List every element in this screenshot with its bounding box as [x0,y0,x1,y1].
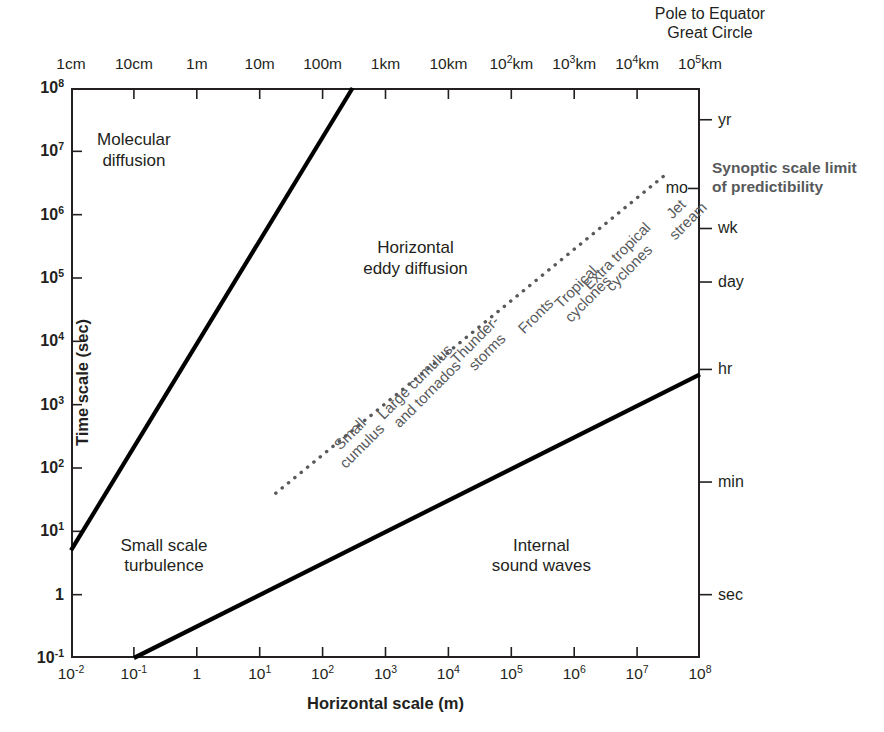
left-axis-label-1: 107 [16,143,64,159]
top-axis-label-1: 10cm [115,56,153,72]
right-axis-label-yr: yr [718,112,731,128]
top-axis-label-7: 102km [489,56,533,72]
top-axis-label-0: 1cm [56,56,85,72]
top-axis-label-6: 10km [429,56,467,72]
right-axis-label-min: min [718,474,744,490]
region-label-0-line-1: diffusion [97,151,171,172]
bottom-axis-label-1: 10-1 [121,666,148,682]
top-axis-label-3: 10m [245,56,275,72]
left-axis-label-2: 106 [16,207,64,223]
bottom-axis-label-3: 101 [248,666,271,682]
region-label-2-line-0: Small scale [120,536,207,557]
region-label-2: Small scaleturbulence [120,536,207,577]
left-axis-label-8: 1 [16,587,64,603]
top-axis-label-8: 103km [552,56,596,72]
left-axis-label-7: 101 [16,523,64,539]
internal-sound-waves-boundary-line [134,374,700,658]
top-axis-label-4: 100m [303,56,342,72]
region-label-3: Internalsound waves [492,536,591,577]
top-axis-label-10: 105km [678,56,722,72]
bottom-axis-label-5: 103 [374,666,397,682]
left-axis-label-3: 105 [16,270,64,286]
right-axis-label-wk: wk [718,220,738,236]
left-axis-label-6: 102 [16,460,64,476]
region-label-1-line-0: Horizontal [363,238,468,259]
left-axis-label-4: 104 [16,333,64,349]
bottom-axis-label-6: 104 [437,666,460,682]
region-label-3-line-0: Internal [492,536,591,557]
top-axis-label-9: 104km [615,56,659,72]
bottom-axis-label-10: 108 [688,666,711,682]
region-label-1: Horizontaleddy diffusion [363,238,468,279]
right-axis-label-hr: hr [718,361,732,377]
bottom-axis-label-0: 10-2 [58,666,85,682]
bottom-axis-label-9: 107 [626,666,649,682]
bottom-axis-label-4: 102 [311,666,334,682]
region-label-0: Moleculardiffusion [97,131,171,172]
region-label-3-line-1: sound waves [492,557,591,578]
top-axis-label-2: 1m [186,56,208,72]
bottom-axis-label-8: 106 [563,666,586,682]
region-label-0-line-0: Molecular [97,131,171,152]
right-axis-label-sec: sec [718,587,743,603]
left-axis-label-0: 108 [16,80,64,96]
right-axis-label-day: day [718,274,744,290]
left-axis-label-9: 10-1 [16,650,64,666]
bottom-axis-label-2: 1 [192,666,201,682]
top-axis-label-5: 1km [371,56,400,72]
region-label-1-line-1: eddy diffusion [363,259,468,280]
region-label-2-line-1: turbulence [120,557,207,578]
bottom-axis-label-7: 105 [500,666,523,682]
left-axis-label-5: 103 [16,397,64,413]
